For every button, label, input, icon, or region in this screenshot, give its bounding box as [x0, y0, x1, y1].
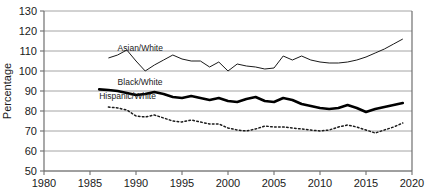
y-tick-label: 130: [19, 5, 37, 17]
y-tick-label: 50: [25, 165, 37, 177]
x-tick-label: 1990: [124, 177, 148, 189]
line-chart: 5060708090100110120130 19801985199019952…: [0, 0, 425, 194]
x-tick-label: 2005: [262, 177, 286, 189]
y-axis-ticks: 5060708090100110120130: [19, 5, 44, 177]
y-tick-label: 70: [25, 125, 37, 137]
y-tick-label: 100: [19, 65, 37, 77]
series-label-hispanic-white: Hispanic/White: [99, 91, 156, 101]
x-tick-label: 2015: [354, 177, 378, 189]
y-axis-title: Percentage: [1, 63, 13, 119]
x-tick-label: 2000: [216, 177, 240, 189]
series-label-asian-white: Asian/White: [118, 43, 164, 53]
y-axis-title-text: Percentage: [1, 63, 13, 119]
y-tick-label: 60: [25, 145, 37, 157]
x-tick-label: 1980: [32, 177, 56, 189]
y-tick-label: 120: [19, 25, 37, 37]
y-tick-label: 90: [25, 85, 37, 97]
x-tick-label: 1985: [78, 177, 102, 189]
x-tick-label: 2010: [308, 177, 332, 189]
x-axis-ticks: 198019851990199520002005201020152020: [32, 171, 424, 189]
x-tick-label: 1995: [170, 177, 194, 189]
series-inline-labels: Asian/WhiteBlack/WhiteHispanic/White: [99, 43, 163, 101]
y-tick-label: 80: [25, 105, 37, 117]
series-label-black-white: Black/White: [118, 77, 163, 87]
chart-figure: 5060708090100110120130 19801985199019952…: [0, 0, 425, 194]
y-tick-label: 110: [19, 45, 37, 57]
x-tick-label: 2020: [400, 177, 424, 189]
